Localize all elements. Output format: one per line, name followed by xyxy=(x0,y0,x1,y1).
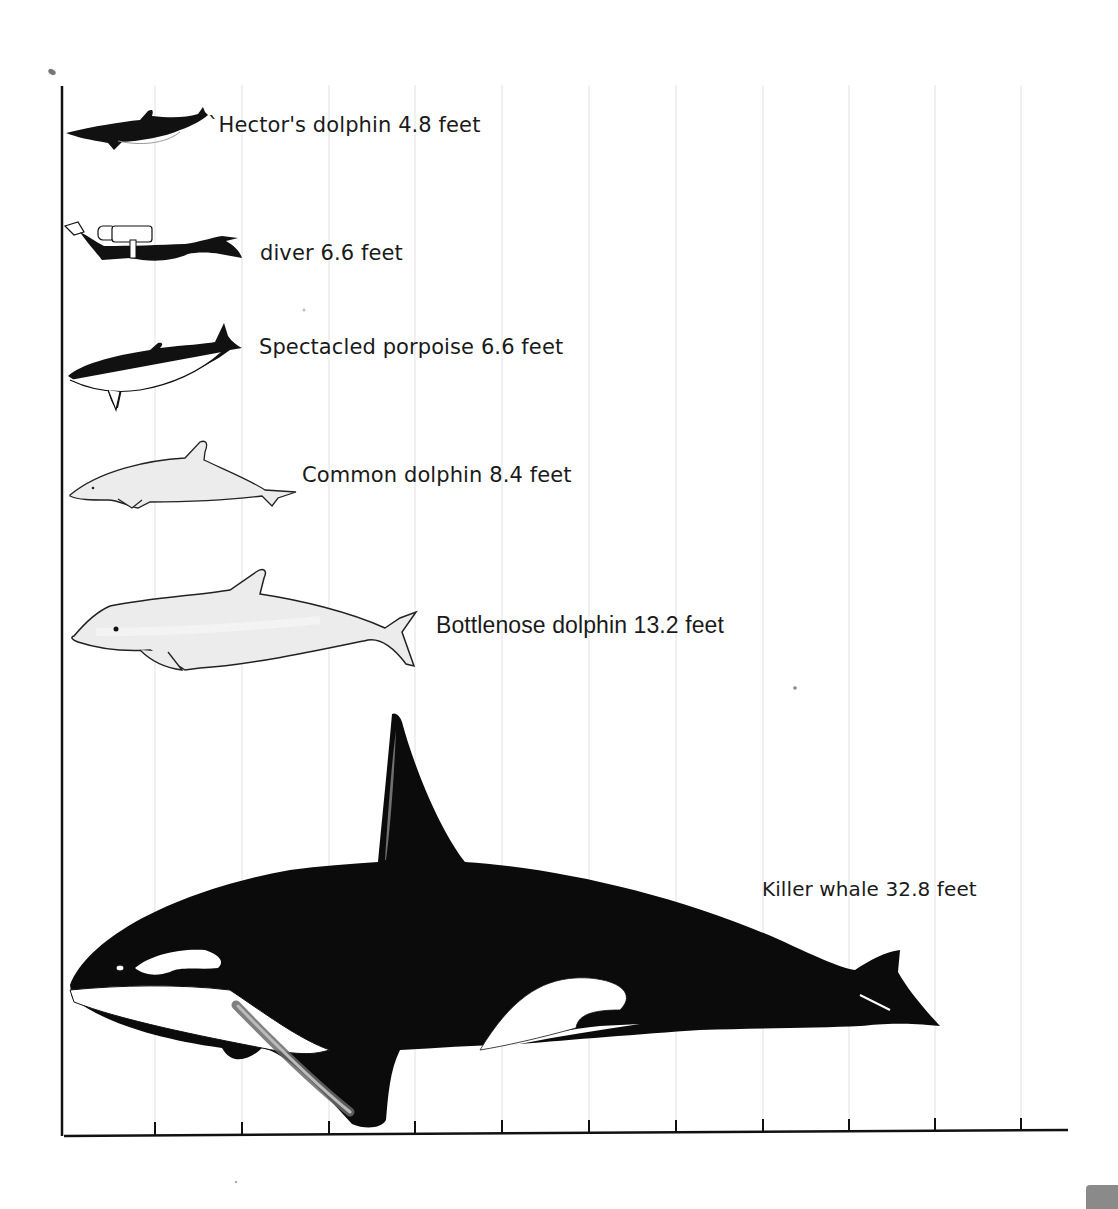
label-diver: diver 6.6 feet xyxy=(260,241,403,265)
size-comparison-chart: `Hector's dolphin 4.8 feet diver 6.6 fee… xyxy=(0,0,1118,1209)
diver-icon xyxy=(65,222,242,261)
x-axis-ticks xyxy=(155,1118,1021,1135)
hector-dolphin-icon xyxy=(66,107,208,150)
stray-mark xyxy=(47,68,56,76)
chart-canvas xyxy=(0,0,1118,1209)
label-common-dolphin: Common dolphin 8.4 feet xyxy=(302,463,572,487)
label-spectacled-porpoise: Spectacled porpoise 6.6 feet xyxy=(259,335,563,359)
speck xyxy=(303,309,306,312)
speck xyxy=(793,686,797,690)
label-hectors-dolphin: `Hector's dolphin 4.8 feet xyxy=(208,113,480,137)
common-dolphin-icon xyxy=(70,441,296,508)
speck xyxy=(235,1181,237,1183)
bottlenose-dolphin-icon xyxy=(72,570,416,670)
label-killer-whale: Killer whale 32.8 feet xyxy=(762,877,977,901)
killer-whale-icon xyxy=(70,713,940,1127)
x-axis xyxy=(64,1130,1068,1136)
page-corner-tab xyxy=(1086,1185,1118,1209)
label-bottlenose-dolphin: Bottlenose dolphin 13.2 feet xyxy=(436,612,724,639)
